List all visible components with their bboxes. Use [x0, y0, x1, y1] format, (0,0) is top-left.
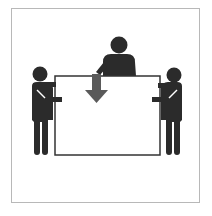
board-panel	[55, 76, 160, 155]
center-person-icon	[96, 37, 136, 77]
three-person-lift-pictogram	[0, 0, 212, 216]
